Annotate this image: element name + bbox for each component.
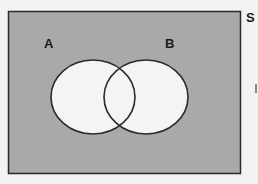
set-b-label: B xyxy=(165,36,174,51)
venn-diagram: A B S xyxy=(0,0,258,184)
universal-set-label: S xyxy=(246,10,255,25)
set-a-label: A xyxy=(44,36,54,51)
scan-artifact-mark xyxy=(255,84,257,93)
